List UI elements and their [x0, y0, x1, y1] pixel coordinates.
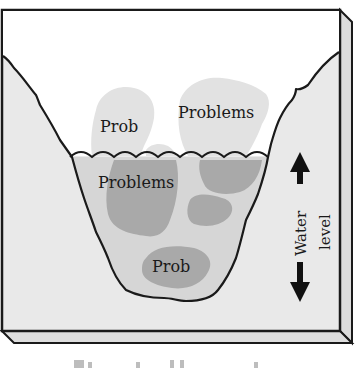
rock-below-left — [106, 160, 178, 236]
label-prob-bottom: Prob — [152, 257, 190, 276]
label-problems-mid-left: Problems — [98, 173, 174, 192]
label-problems-top-right: Problems — [178, 103, 254, 122]
label-water: Water — [292, 210, 310, 256]
label-prob-top-left: Prob — [100, 117, 138, 136]
caption-cutoff — [74, 360, 258, 368]
frame-right-face — [340, 10, 352, 343]
water-level-diagram: Prob Problems Problems Prob Water level — [0, 0, 357, 368]
frame-bottom-face — [2, 331, 352, 343]
label-level: level — [316, 214, 334, 250]
